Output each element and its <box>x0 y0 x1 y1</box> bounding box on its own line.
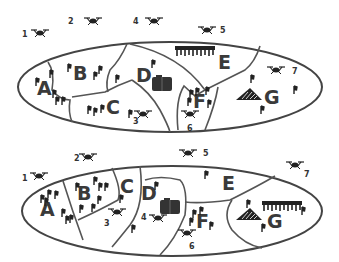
svg-text:4: 4 <box>133 17 139 26</box>
svg-text:4: 4 <box>141 213 147 222</box>
bottom-region-g-label: G <box>267 210 283 232</box>
svg-text:1: 1 <box>22 174 28 183</box>
svg-text:3: 3 <box>133 117 139 126</box>
drone-icon <box>286 162 304 169</box>
diagram-canvas: A B C D E F G 1 2 <box>0 0 339 262</box>
drone-icon <box>79 154 97 161</box>
top-drone-4: 4 <box>133 17 163 26</box>
top-building-icon <box>152 75 172 91</box>
svg-text:3: 3 <box>104 219 110 228</box>
svg-text:2: 2 <box>68 17 74 26</box>
svg-text:1: 1 <box>22 30 28 39</box>
top-region-e-label: E <box>218 51 231 73</box>
bottom-region-e-label: E <box>222 172 235 194</box>
top-drone-1: 1 <box>22 30 49 39</box>
drone-icon <box>179 150 197 157</box>
svg-text:6: 6 <box>187 124 193 133</box>
drone-icon <box>30 173 48 180</box>
top-drone-2: 2 <box>68 17 102 26</box>
drone-icon <box>198 27 216 34</box>
svg-text:5: 5 <box>220 26 226 35</box>
bottom-drone-2: 2 <box>74 154 97 163</box>
top-region-c-label: C <box>106 96 120 118</box>
bottom-map-panel: A B C D E F G 1 2 <box>22 149 322 256</box>
bottom-region-f-label: F <box>196 210 209 232</box>
top-region-d-label: D <box>136 64 152 86</box>
bottom-drone-1: 1 <box>22 173 48 183</box>
drone-icon <box>31 30 49 37</box>
svg-text:7: 7 <box>304 170 310 179</box>
top-drone-5: 5 <box>198 26 226 35</box>
bottom-drone-7: 7 <box>286 162 310 179</box>
svg-text:7: 7 <box>292 67 298 76</box>
top-region-b-label: B <box>73 62 87 84</box>
drone-icon <box>145 18 163 25</box>
drone-icon <box>84 18 102 25</box>
bottom-region-c-label: C <box>120 175 134 197</box>
top-region-g-label: G <box>264 86 280 108</box>
svg-text:2: 2 <box>74 154 80 163</box>
svg-text:6: 6 <box>189 242 195 251</box>
top-region-f-label: F <box>193 90 206 112</box>
bottom-drone-5: 5 <box>179 149 209 158</box>
svg-text:5: 5 <box>203 149 209 158</box>
bottom-building-icon <box>160 198 180 214</box>
top-map-panel: A B C D E F G 1 2 <box>18 17 322 133</box>
